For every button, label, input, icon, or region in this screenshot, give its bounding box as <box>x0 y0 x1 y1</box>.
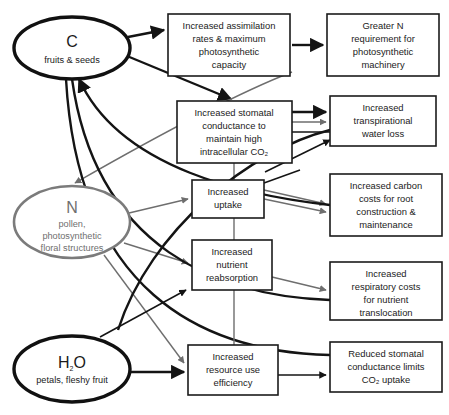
box-reabsorption-line-0: Increased <box>211 246 252 257</box>
box-greater-n-line-0: Greater N <box>362 20 403 31</box>
box-stomatal-line-3: intracellular CO₂ <box>200 146 269 157</box>
box-respiratory-line-0: Increased <box>365 268 406 279</box>
edge-n-to-uptake <box>129 199 188 213</box>
box-transpirational-loss[interactable]: Increased transpirational water loss <box>330 96 436 146</box>
box-efficiency-line-1: resource use <box>206 364 260 375</box>
box-assimilation-line-1: rates & maximum <box>193 33 266 44</box>
node-water[interactable]: H2O petals, fleshy fruit <box>14 336 130 402</box>
box-stomatal-line-2: maintain high <box>206 133 262 144</box>
node-carbon-symbol: C <box>66 33 78 50</box>
node-water-subtitle: petals, fleshy fruit <box>36 375 108 385</box>
node-nitrogen[interactable]: N pollen, photosynthetic floral structur… <box>14 186 130 258</box>
box-carbon-costs-line-0: Increased carbon <box>350 180 422 191</box>
box-stomatal-line-0: Increased stomatal <box>194 107 273 118</box>
box-uptake-line-1: uptake <box>214 199 242 210</box>
box-transpiration-line-1: transpirational <box>354 115 413 126</box>
box-reduced-stomatal-line-0: Reduced stomatal <box>348 348 424 359</box>
diagram-canvas: Increased assimilation rates & maximum p… <box>0 0 449 415</box>
node-nitrogen-subtitle-0: pollen, <box>58 219 85 229</box>
box-greater-n-line-1: requirement for <box>351 33 415 44</box>
box-carbon-costs-root[interactable]: Increased carbon costs for root construc… <box>330 174 442 236</box>
box-carbon-costs-line-3: maintenance <box>359 219 413 230</box>
box-resource-use-efficiency[interactable]: Increased resource use efficiency <box>188 345 278 395</box>
node-carbon-subtitle: fruits & seeds <box>44 55 100 65</box>
box-greater-n-line-3: machinery <box>361 59 405 70</box>
edge-reabsorption-to-respiratory <box>272 277 326 290</box>
box-greater-n[interactable]: Greater N requirement for photosynthetic… <box>327 14 439 76</box>
node-water-symbol-main: H <box>58 354 70 371</box>
box-greater-n-line-2: photosynthetic <box>353 46 414 57</box>
resource-node-layer: C fruits & seeds N pollen, photosyntheti… <box>14 17 130 402</box>
box-assimilation-line-2: photosynthetic <box>199 46 260 57</box>
box-increased-uptake[interactable]: Increased uptake <box>192 180 264 218</box>
edge-carbon-costs-left-stub <box>264 170 300 183</box>
node-nitrogen-subtitle-1: photosynthetic <box>42 231 102 241</box>
box-reabsorption-line-2: reabsorption <box>206 272 258 283</box>
box-uptake-line-0: Increased <box>207 186 248 197</box>
box-stomatal-conductance[interactable]: Increased stomatal conductance to mainta… <box>177 101 292 163</box>
box-stomatal-line-1: conductance to <box>202 120 266 131</box>
box-respiratory-line-1: respiratory costs <box>352 281 421 292</box>
box-efficiency-line-2: efficiency <box>214 377 253 388</box>
box-reduced-stomatal[interactable]: Reduced stomatal conductance limits CO₂ … <box>330 342 442 392</box>
box-assimilation-line-3: capacity <box>212 59 247 70</box>
box-assimilation-line-0: Increased assimilation <box>183 20 276 31</box>
edge-h2o-to-uptake-column <box>100 290 186 337</box>
box-carbon-costs-line-2: construction & <box>356 206 416 217</box>
box-respiratory-line-2: for nutrient <box>364 294 409 305</box>
node-water-symbol-tail: O <box>74 354 86 371</box>
resource-flow-diagram: Increased assimilation rates & maximum p… <box>0 0 449 415</box>
box-transpiration-line-0: Increased <box>362 102 403 113</box>
box-reduced-stomatal-line-2: CO₂ uptake <box>362 374 410 385</box>
box-carbon-costs-line-1: costs for root <box>359 193 414 204</box>
node-nitrogen-symbol: N <box>66 199 78 216</box>
edge-c-to-assimilation <box>128 30 164 37</box>
box-respiratory-line-3: translocation <box>359 307 412 318</box>
box-nutrient-reabsorption[interactable]: Increased nutrient reabsorption <box>192 240 272 290</box>
box-transpiration-line-2: water loss <box>361 128 405 139</box>
node-carbon[interactable]: C fruits & seeds <box>14 17 130 79</box>
box-reduced-stomatal-line-1: conductance limits <box>347 361 424 372</box>
node-nitrogen-subtitle-2: floral structures <box>41 243 104 253</box>
box-reabsorption-line-1: nutrient <box>216 259 248 270</box>
box-respiratory-costs[interactable]: Increased respiratory costs for nutrient… <box>330 262 442 320</box>
box-efficiency-line-0: Increased <box>212 351 253 362</box>
process-box-layer: Increased assimilation rates & maximum p… <box>168 14 442 395</box>
box-assimilation[interactable]: Increased assimilation rates & maximum p… <box>168 14 290 76</box>
edge-n-to-reabsorption <box>124 243 188 263</box>
